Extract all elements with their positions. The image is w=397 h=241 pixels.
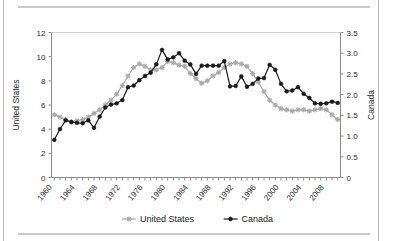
data-point-marker <box>160 48 164 52</box>
x-axis-tick-label: 1964 <box>58 183 77 203</box>
data-point-marker <box>108 98 113 103</box>
data-point-marker <box>154 63 158 67</box>
data-point-marker <box>91 111 96 116</box>
data-point-marker <box>193 76 198 81</box>
data-point-marker <box>81 121 85 125</box>
data-point-marker <box>229 217 233 221</box>
data-point-marker <box>64 118 68 122</box>
data-point-marker <box>222 59 226 63</box>
data-point-marker <box>302 92 306 96</box>
data-point-marker <box>307 108 312 113</box>
data-point-marker <box>227 61 232 66</box>
data-point-marker <box>301 107 306 112</box>
data-point-marker <box>69 120 73 124</box>
data-point-marker <box>103 106 107 110</box>
data-point-marker <box>228 84 232 88</box>
data-point-marker <box>200 64 204 68</box>
data-point-marker <box>177 51 181 55</box>
data-point-marker <box>262 76 266 80</box>
data-point-marker <box>131 65 136 70</box>
data-point-marker <box>244 64 249 69</box>
legend-label: United States <box>140 214 195 224</box>
data-point-marker <box>57 114 62 119</box>
data-point-marker <box>154 67 159 72</box>
data-point-marker <box>120 83 125 88</box>
data-point-marker <box>98 115 102 119</box>
data-point-marker <box>149 71 153 75</box>
data-point-marker <box>273 102 278 107</box>
x-axis-tick-label: 2004 <box>285 183 304 203</box>
left-axis-tick-label: 0 <box>41 174 46 183</box>
data-point-marker <box>176 63 181 68</box>
legend-label: Canada <box>242 214 274 224</box>
data-point-marker <box>279 82 283 86</box>
x-axis-tick-label: 1972 <box>104 183 123 203</box>
x-axis-tick-label: 1996 <box>240 183 259 203</box>
data-point-marker <box>205 78 210 83</box>
x-axis-tick-label: 1976 <box>126 183 145 203</box>
data-point-marker <box>296 85 300 89</box>
data-point-marker <box>182 64 187 69</box>
data-point-marker <box>239 75 243 79</box>
data-point-marker <box>335 117 340 122</box>
x-axis-tick-label: 1980 <box>149 183 168 203</box>
series-line <box>54 50 337 140</box>
data-point-marker <box>251 82 255 86</box>
data-point-marker <box>330 100 334 104</box>
data-point-marker <box>52 138 56 142</box>
data-point-marker <box>234 84 238 88</box>
data-point-marker <box>142 64 147 69</box>
right-axis-tick-label: 1.0 <box>347 132 359 141</box>
right-axis-tick-label: 1.5 <box>347 111 359 120</box>
x-axis-tick-label: 2008 <box>308 183 327 203</box>
data-point-marker <box>313 101 317 105</box>
data-point-marker <box>126 216 131 221</box>
data-point-marker <box>52 112 57 117</box>
data-point-marker <box>290 108 295 113</box>
data-point-marker <box>256 77 260 81</box>
data-point-marker <box>284 107 289 112</box>
data-point-marker <box>324 101 328 105</box>
figure-root: 02468101200.51.01.52.02.53.03.5196019641… <box>0 0 397 241</box>
left-axis-tick-label: 12 <box>37 29 46 38</box>
left-axis-title: United States <box>11 79 21 130</box>
x-axis-tick-label: 1984 <box>172 183 191 203</box>
data-point-marker <box>166 58 170 62</box>
series-line <box>54 62 337 122</box>
left-axis-tick-label: 8 <box>41 77 46 86</box>
left-axis-tick-label: 2 <box>41 149 46 158</box>
data-point-marker <box>114 92 119 97</box>
x-axis-tick-label: 1960 <box>36 183 55 203</box>
data-point-marker <box>336 101 340 105</box>
data-point-marker <box>171 55 175 59</box>
data-point-marker <box>137 78 141 82</box>
data-point-marker <box>199 81 204 86</box>
data-point-marker <box>137 61 142 66</box>
data-point-marker <box>159 65 164 70</box>
data-point-marker <box>211 64 215 68</box>
x-axis-tick-label: 1968 <box>81 183 100 203</box>
data-point-marker <box>324 107 329 112</box>
right-axis-tick-label: 2.5 <box>347 70 359 79</box>
left-axis-tick-label: 4 <box>41 125 46 134</box>
data-point-marker <box>194 72 198 76</box>
left-axis-tick-label: 6 <box>41 101 46 110</box>
legend-item-canada: Canada <box>224 214 274 224</box>
data-point-marker <box>290 89 294 93</box>
line-chart: 02468101200.51.01.52.02.53.03.5196019641… <box>0 0 397 241</box>
data-point-marker <box>143 74 147 78</box>
data-point-marker <box>329 112 334 117</box>
data-point-marker <box>183 59 187 63</box>
data-point-marker <box>245 85 249 89</box>
legend-layer: United StatesCanada <box>122 214 273 224</box>
right-axis-tick-label: 0.5 <box>347 153 359 162</box>
data-point-marker <box>92 126 96 130</box>
data-point-marker <box>120 98 124 102</box>
data-point-marker <box>307 96 311 100</box>
data-point-marker <box>210 73 215 78</box>
data-point-marker <box>295 107 300 112</box>
data-point-marker <box>268 63 272 67</box>
x-axis-tick-label: 1988 <box>194 183 213 203</box>
right-axis-title: Canada <box>366 90 376 120</box>
right-axis-tick-label: 3.5 <box>347 29 359 38</box>
